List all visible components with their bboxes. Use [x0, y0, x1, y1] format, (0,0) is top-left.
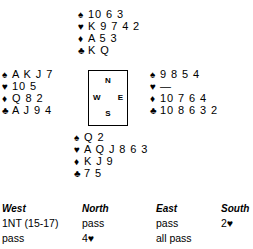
hand-north-diamonds: A 5 3: [88, 32, 118, 44]
spade-icon: ♠: [74, 132, 84, 144]
hand-south-clubs-row: ♣ 7 5: [74, 167, 148, 179]
compass-box: N W E S: [88, 70, 128, 126]
hand-north-clubs-row: ♣ K Q: [78, 44, 140, 56]
diamond-icon: ♦: [2, 93, 12, 105]
hand-north-diamonds-row: ♦ A 5 3: [78, 32, 140, 44]
hand-south: ♠ Q 2 ♥ A Q J 8 6 3 ♦ K J 9 ♣ 7 5: [74, 131, 148, 179]
hand-west: ♠ A K J 7 ♥ 10 5 ♦ Q 8 2 ♣ A J 9 4: [2, 68, 53, 116]
club-icon: ♣: [78, 45, 88, 57]
auction-table: West North East South 1NT (15-17) pass p…: [0, 203, 253, 247]
hand-south-hearts-row: ♥ A Q J 8 6 3: [74, 143, 148, 155]
hand-north-hearts-row: ♥ K 9 7 4 2: [78, 20, 140, 32]
hand-west-diamonds-row: ♦ Q 8 2: [2, 92, 53, 104]
hand-east-clubs: 10 8 6 3 2: [160, 104, 218, 116]
auction-header-row: West North East South: [0, 203, 253, 217]
auction-header-north: North: [80, 203, 154, 217]
hand-east: ♠ 9 8 5 4 ♥ — ♦ 10 7 6 4 ♣ 10 8 6 3 2: [150, 68, 218, 116]
auction-bid-east-1: pass: [154, 217, 219, 232]
hand-north: ♠ 10 6 3 ♥ K 9 7 4 2 ♦ A 5 3 ♣ K Q: [78, 8, 140, 56]
hand-north-spades: 10 6 3: [88, 8, 124, 20]
heart-icon: ♥: [2, 81, 12, 93]
auction-bid-west-2: pass: [0, 232, 80, 247]
auction-bid-south-2: [219, 232, 253, 247]
auction-header-east: East: [154, 203, 219, 217]
hand-west-diamonds: Q 8 2: [12, 92, 43, 104]
hand-south-hearts: A Q J 8 6 3: [84, 143, 148, 155]
hand-east-diamonds: 10 7 6 4: [160, 92, 207, 104]
heart-icon: ♥: [78, 21, 88, 33]
auction-bid-north-2: 4♥: [80, 232, 154, 247]
auction-header-south: South: [219, 203, 253, 217]
hand-west-clubs: A J 9 4: [12, 104, 52, 116]
compass-north-label: N: [89, 77, 127, 85]
hand-east-hearts-row: ♥ —: [150, 80, 218, 92]
spade-icon: ♠: [150, 69, 160, 81]
hand-east-spades: 9 8 5 4: [160, 68, 200, 80]
compass-east-label: E: [118, 94, 123, 102]
hand-north-clubs: K Q: [88, 44, 110, 56]
auction-row: 1NT (15-17) pass pass 2♥: [0, 217, 253, 232]
spade-icon: ♠: [2, 69, 12, 81]
auction-bid-east-2: all pass: [154, 232, 219, 247]
club-icon: ♣: [74, 168, 84, 180]
spade-icon: ♠: [78, 9, 88, 21]
hand-north-hearts: K 9 7 4 2: [88, 20, 140, 32]
auction-bid-south-1: 2♥: [219, 217, 253, 232]
diamond-icon: ♦: [78, 33, 88, 45]
hand-north-spades-row: ♠ 10 6 3: [78, 8, 140, 20]
hand-west-hearts-row: ♥ 10 5: [2, 80, 53, 92]
hand-east-clubs-row: ♣ 10 8 6 3 2: [150, 104, 218, 116]
heart-icon: ♥: [150, 81, 160, 93]
hand-west-clubs-row: ♣ A J 9 4: [2, 104, 53, 116]
hand-east-spades-row: ♠ 9 8 5 4: [150, 68, 218, 80]
hand-west-spades: A K J 7: [12, 68, 53, 80]
hand-south-diamonds-row: ♦ K J 9: [74, 155, 148, 167]
hand-south-spades: Q 2: [84, 131, 104, 143]
hand-east-diamonds-row: ♦ 10 7 6 4: [150, 92, 218, 104]
hand-south-clubs: 7 5: [84, 167, 102, 179]
compass-west-label: W: [93, 94, 101, 102]
heart-icon: ♥: [74, 144, 84, 156]
auction-header-west: West: [0, 203, 80, 217]
auction-row: pass 4♥ all pass: [0, 232, 253, 247]
compass-south-label: S: [89, 110, 127, 118]
auction-bid-north-1: pass: [80, 217, 154, 232]
auction-bid-west-1: 1NT (15-17): [0, 217, 80, 232]
hand-east-hearts: —: [160, 80, 172, 92]
hand-west-hearts: 10 5: [12, 80, 37, 92]
hand-west-spades-row: ♠ A K J 7: [2, 68, 53, 80]
diamond-icon: ♦: [150, 93, 160, 105]
diamond-icon: ♦: [74, 156, 84, 168]
club-icon: ♣: [2, 105, 12, 117]
club-icon: ♣: [150, 105, 160, 117]
hand-south-diamonds: K J 9: [84, 155, 114, 167]
hand-south-spades-row: ♠ Q 2: [74, 131, 148, 143]
